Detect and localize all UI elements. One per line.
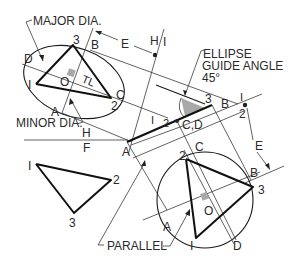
ellipse-letter-d: D [24,52,33,66]
arrow-head-icon [141,160,146,166]
major-dia-leader-tick [26,20,32,22]
ellipse-point-3: 3 [73,33,80,47]
fold-2-right: 2 [239,107,246,121]
arrow-head-icon [39,55,44,61]
arrow-head-icon [183,90,187,96]
ellipse-guide-leader [185,51,201,95]
edge-point-2: 2 [163,117,169,129]
circle-point-2: 2 [179,149,186,163]
guide-line [156,85,205,104]
edge-point-3: 3 [205,92,212,106]
circle-letter-c: C [195,140,204,154]
dim-line [247,108,253,140]
fold-1-right: I [240,91,243,103]
fold-point [153,53,157,57]
fold-h-label-bottom: H [82,126,91,140]
major-dia-label: MAJOR DIA. [33,14,102,28]
ellipse-point-1: I [28,78,31,92]
fold-h-label: H [150,34,159,48]
circle-letter-d: D [233,239,242,253]
ellipse-guide-label-3: 45° [202,71,220,85]
ellipse-letter-o: O [60,75,69,89]
circle-letter-a: A [163,220,171,234]
front-point-3: 3 [69,216,76,230]
fold-1-label: I [163,35,166,49]
ellipse-point-2: 2 [111,99,118,113]
minor-dia-label: MINOR DIA. [16,116,83,130]
circle-point-1: I [190,239,193,253]
dimension-e-label: E [121,37,129,51]
edge-point-1: I [151,114,154,126]
circle-point-3: 3 [258,183,265,197]
ellipse-letter-b: B [91,38,99,52]
construction-diagram: MAJOR DIA. 3 B D I O TL C 2 A MINOR DIA.… [0,0,298,261]
front-point-1: I [28,159,31,173]
circle-letter-b: B [250,166,258,180]
projector-line [177,121,236,240]
front-point-2: 2 [113,173,120,187]
parallel-label: PARALLEL [107,239,167,253]
front-triangle [36,164,111,213]
dimension-e-label-right: E [255,139,263,153]
fold-f-label: F [83,141,90,155]
arrow-head-icon [185,209,190,216]
circle-letter-o: O [204,204,213,218]
edge-letter-a: A [122,145,130,159]
parallel-leader-left [98,164,144,245]
arrow-head-icon [95,31,102,35]
